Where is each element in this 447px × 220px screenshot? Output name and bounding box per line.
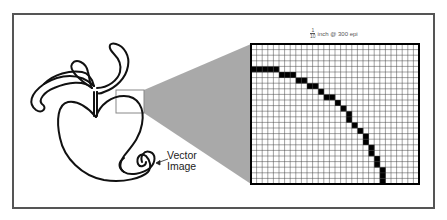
vector-apple-icon bbox=[31, 44, 154, 181]
filled-pixel bbox=[335, 100, 341, 106]
vector-image-label: Vector Image bbox=[167, 150, 197, 172]
zoom-region-box bbox=[116, 90, 144, 113]
filled-pixel bbox=[324, 94, 330, 100]
filled-pixel bbox=[346, 111, 352, 117]
pixel-grid bbox=[251, 44, 419, 184]
filled-pixel bbox=[262, 66, 268, 72]
filled-pixel bbox=[380, 167, 386, 173]
filled-pixel bbox=[279, 72, 285, 78]
filled-pixel bbox=[357, 128, 363, 134]
filled-pixel bbox=[352, 122, 358, 128]
filled-pixel bbox=[257, 66, 263, 72]
filled-pixel bbox=[363, 134, 369, 140]
filled-pixel bbox=[301, 78, 307, 84]
filled-pixel bbox=[374, 162, 380, 168]
filled-pixel bbox=[341, 106, 347, 112]
filled-pixel bbox=[273, 66, 279, 72]
filled-pixel bbox=[313, 83, 319, 89]
filled-pixel bbox=[369, 150, 375, 156]
filled-pixel bbox=[290, 72, 296, 78]
filled-pixel bbox=[374, 156, 380, 162]
diagram-canvas bbox=[0, 0, 447, 220]
filled-pixel bbox=[307, 83, 313, 89]
resolution-caption: 1 10 inch @ 300 epi bbox=[310, 28, 358, 39]
filled-pixel bbox=[268, 66, 274, 72]
filled-pixel bbox=[285, 72, 291, 78]
filled-pixel bbox=[318, 89, 324, 95]
filled-pixel bbox=[329, 94, 335, 100]
filled-pixel bbox=[380, 173, 386, 179]
vector-label-line2: Image bbox=[167, 161, 197, 172]
caption-text: inch @ 300 epi bbox=[318, 31, 358, 37]
fraction: 1 10 bbox=[310, 28, 316, 39]
filled-pixel bbox=[346, 117, 352, 123]
fraction-denominator: 10 bbox=[310, 34, 316, 39]
filled-pixel bbox=[369, 145, 375, 151]
filled-pixel bbox=[296, 78, 302, 84]
filled-pixel bbox=[363, 139, 369, 145]
